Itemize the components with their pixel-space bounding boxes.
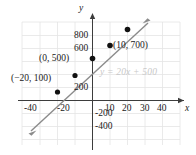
- data-point-20-900: [125, 27, 131, 33]
- data-point-0-500: [90, 56, 96, 62]
- point-label-10-700: (10, 700): [113, 41, 148, 51]
- line-arrow-lower-left: [29, 131, 37, 136]
- x-tick-label-30: 30: [140, 104, 150, 114]
- y-tick-label-neg200: -200: [95, 109, 112, 119]
- y-axis-arrow: [90, 13, 95, 19]
- y-tick-label-200: 200: [74, 83, 88, 93]
- y-tick-label-600: 600: [74, 44, 88, 54]
- y-axis-label: y: [79, 4, 83, 14]
- y-tick-label-800: 800: [74, 31, 88, 41]
- line-arrow-upper-right: [143, 18, 151, 23]
- x-axis-arrow: [178, 98, 184, 103]
- equation-label: y = 20x + 500: [100, 68, 157, 78]
- point-label-neg20-100: (−20, 100): [11, 74, 51, 84]
- y-tick-label-neg400: -400: [95, 122, 112, 132]
- x-axis-label: x: [185, 104, 189, 114]
- x-tick-label-neg20: -20: [57, 104, 70, 114]
- x-tick-label-40: 40: [157, 104, 167, 114]
- data-point-neg10-300: [72, 73, 77, 78]
- point-label-0-500: (0, 500): [39, 54, 69, 64]
- x-tick-label-20: 20: [122, 104, 132, 114]
- data-point-10-700: [107, 43, 113, 49]
- graph-figure: y x -40 -20 10 20 30 40 800 600 200 -200…: [0, 0, 196, 155]
- x-tick-label-neg40: -40: [24, 104, 37, 114]
- data-point-neg20-100: [55, 89, 60, 94]
